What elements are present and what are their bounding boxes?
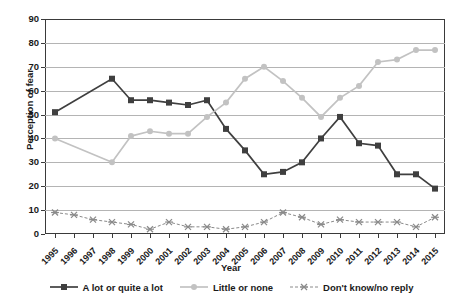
data-point bbox=[185, 102, 191, 108]
y-tick-mark bbox=[41, 210, 45, 211]
data-point bbox=[166, 131, 172, 137]
data-point bbox=[241, 224, 249, 230]
data-point bbox=[146, 226, 154, 232]
data-point bbox=[204, 114, 210, 120]
x-tick-mark bbox=[150, 234, 151, 238]
y-tick-label: 0 bbox=[17, 229, 39, 239]
data-point bbox=[394, 57, 400, 63]
y-tick-mark bbox=[41, 234, 45, 235]
x-tick-mark bbox=[416, 234, 417, 238]
x-tick-mark bbox=[169, 234, 170, 238]
y-tick-mark bbox=[41, 138, 45, 139]
x-tick-mark bbox=[359, 234, 360, 238]
data-point bbox=[394, 171, 400, 177]
data-point bbox=[52, 135, 58, 141]
x-tick-mark bbox=[245, 234, 246, 238]
data-point bbox=[89, 217, 97, 223]
x-axis-title: Year bbox=[0, 262, 462, 273]
legend-marker-icon bbox=[179, 281, 209, 293]
data-point bbox=[223, 100, 229, 106]
data-point bbox=[337, 95, 343, 101]
line-chart: Perception of fear 0102030405060708090 1… bbox=[0, 0, 462, 305]
x-tick-mark bbox=[302, 234, 303, 238]
data-point bbox=[356, 140, 362, 146]
x-tick-mark bbox=[397, 234, 398, 238]
series-line bbox=[55, 79, 435, 189]
y-tick-label: 80 bbox=[17, 38, 39, 48]
data-point bbox=[127, 221, 135, 227]
x-tick-mark bbox=[264, 234, 265, 238]
data-point bbox=[413, 171, 419, 177]
data-point bbox=[375, 143, 381, 149]
data-point bbox=[204, 97, 210, 103]
data-point bbox=[128, 97, 134, 103]
x-tick-mark bbox=[378, 234, 379, 238]
data-point bbox=[355, 219, 363, 225]
data-point bbox=[223, 126, 229, 132]
y-tick-label: 10 bbox=[17, 205, 39, 215]
y-tick-mark bbox=[41, 162, 45, 163]
data-point bbox=[108, 219, 116, 225]
y-tick-label: 70 bbox=[17, 62, 39, 72]
y-tick-mark bbox=[41, 67, 45, 68]
data-point bbox=[318, 135, 324, 141]
data-point bbox=[317, 221, 325, 227]
x-tick-mark bbox=[188, 234, 189, 238]
data-point bbox=[298, 214, 306, 220]
y-tick-mark bbox=[41, 115, 45, 116]
legend-item[interactable]: Don't know/no reply bbox=[289, 281, 413, 293]
data-point bbox=[261, 64, 267, 70]
y-tick-mark bbox=[41, 186, 45, 187]
x-tick-mark bbox=[226, 234, 227, 238]
legend-label: Little or none bbox=[213, 282, 273, 293]
legend-item[interactable]: Little or none bbox=[179, 281, 273, 293]
data-point bbox=[184, 224, 192, 230]
data-point bbox=[318, 114, 324, 120]
legend-label: Don't know/no reply bbox=[323, 282, 413, 293]
legend-item[interactable]: A lot or quite a lot bbox=[49, 281, 163, 293]
y-tick-label: 30 bbox=[17, 157, 39, 167]
data-point bbox=[166, 100, 172, 106]
y-tick-label: 20 bbox=[17, 181, 39, 191]
data-point bbox=[336, 217, 344, 223]
data-point bbox=[52, 109, 58, 115]
data-point bbox=[280, 78, 286, 84]
data-point bbox=[260, 219, 268, 225]
x-tick-mark bbox=[283, 234, 284, 238]
y-tick-mark bbox=[41, 43, 45, 44]
data-point bbox=[337, 114, 343, 120]
x-tick-mark bbox=[435, 234, 436, 238]
x-tick-mark bbox=[112, 234, 113, 238]
data-point bbox=[299, 159, 305, 165]
data-point bbox=[279, 210, 287, 216]
data-point bbox=[51, 210, 59, 216]
data-point bbox=[147, 97, 153, 103]
x-tick-mark bbox=[207, 234, 208, 238]
legend-label: A lot or quite a lot bbox=[83, 282, 163, 293]
data-point bbox=[222, 226, 230, 232]
data-point bbox=[147, 128, 153, 134]
data-point bbox=[109, 76, 115, 82]
series-don-t-know-no-reply bbox=[51, 210, 439, 233]
data-point bbox=[70, 212, 78, 218]
y-tick-label: 90 bbox=[17, 14, 39, 24]
data-point bbox=[261, 171, 267, 177]
y-tick-label: 60 bbox=[17, 86, 39, 96]
x-tick-mark bbox=[93, 234, 94, 238]
data-point bbox=[432, 47, 438, 53]
data-point bbox=[432, 186, 438, 192]
data-point bbox=[374, 219, 382, 225]
x-tick-mark bbox=[321, 234, 322, 238]
series-a-lot-or-quite-a-lot bbox=[52, 76, 438, 192]
data-point bbox=[109, 159, 115, 165]
data-point bbox=[393, 219, 401, 225]
plot-area: 0102030405060708090 19951996199719981999… bbox=[45, 19, 445, 234]
data-point bbox=[203, 224, 211, 230]
y-tick-label: 40 bbox=[17, 133, 39, 143]
data-point bbox=[242, 76, 248, 82]
x-tick-mark bbox=[340, 234, 341, 238]
x-tick-mark bbox=[131, 234, 132, 238]
data-point bbox=[413, 47, 419, 53]
y-tick-mark bbox=[41, 19, 45, 20]
series-layer bbox=[45, 19, 445, 234]
